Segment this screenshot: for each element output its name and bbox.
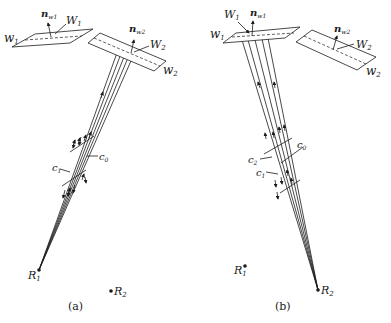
label-R2: R2 — [320, 284, 334, 298]
panel-a: w1 nw1 W1 nw2 W2 w2 c1 c0 R1 R2 (a) — [4, 8, 178, 313]
point-R2 — [316, 288, 320, 292]
point-R2 — [109, 289, 113, 293]
point-R1 — [37, 268, 41, 272]
point-R1 — [243, 264, 247, 268]
label-plate-w2: w2 — [163, 63, 178, 78]
label-W1: W1 — [224, 8, 240, 22]
label-c2: c2 — [248, 154, 258, 166]
label-normal-nw1: nw1 — [41, 8, 57, 20]
label-W1: W1 — [66, 14, 82, 28]
label-c1: c1 — [52, 162, 61, 174]
caption-a: (a) — [68, 300, 83, 313]
plate-w1-b — [223, 21, 300, 43]
label-normal-nw2: nw2 — [334, 23, 350, 35]
label-c1: c1 — [256, 167, 265, 179]
caption-b: (b) — [275, 300, 291, 313]
label-W2: W2 — [356, 38, 372, 52]
label-R2: R2 — [113, 285, 127, 299]
panel-b: w1 W1 nw1 nw2 W2 w2 c2 c1 c0 R1 R2 (b) — [210, 7, 381, 313]
label-W2: W2 — [150, 38, 166, 52]
label-plate-w2: w2 — [366, 64, 381, 79]
label-c0: c0 — [297, 139, 307, 151]
label-normal-nw1: nw1 — [250, 7, 266, 19]
label-c0: c0 — [99, 151, 109, 163]
beam-bundle-a — [39, 50, 134, 270]
label-normal-nw2: nw2 — [129, 23, 145, 35]
label-plate-w1: w1 — [210, 27, 225, 42]
beam-diagram: w1 nw1 W1 nw2 W2 w2 c1 c0 R1 R2 (a) — [0, 0, 391, 323]
label-plate-w1: w1 — [4, 31, 19, 46]
